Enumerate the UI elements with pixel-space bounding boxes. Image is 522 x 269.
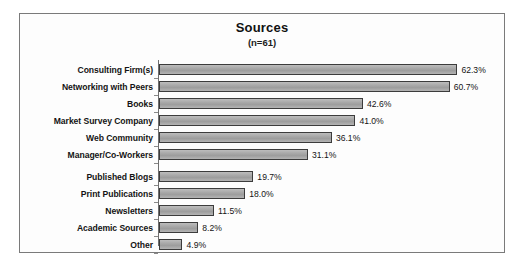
bar-value-label: 62.3% (461, 64, 485, 76)
bar (159, 239, 182, 250)
bar (159, 149, 308, 160)
bar (159, 132, 332, 143)
chart-title-block: Sources (n=61) (20, 20, 504, 49)
bar (159, 81, 450, 92)
bar (159, 222, 198, 233)
bar-row: Consulting Firm(s)62.3% (20, 62, 504, 79)
category-label: Academic Sources (20, 222, 153, 234)
plot-area: Consulting Firm(s)62.3%Networking with P… (20, 59, 504, 252)
category-label: Newsletters (20, 205, 153, 217)
bar-value-label: 42.6% (367, 98, 391, 110)
bar-row: Academic Sources8.2% (20, 220, 504, 237)
bar (159, 171, 253, 182)
bar (159, 115, 355, 126)
category-label: Web Community (20, 132, 153, 144)
bar-row: Books42.6% (20, 96, 504, 113)
chart-subtitle: (n=61) (20, 36, 504, 49)
bar-value-label: 4.9% (186, 239, 206, 251)
bar-value-label: 8.2% (202, 222, 222, 234)
bar-row: Manager/Co-Workers31.1% (20, 147, 504, 164)
category-label: Networking with Peers (20, 81, 153, 93)
bar-value-label: 60.7% (454, 81, 478, 93)
category-label: Market Survey Company (20, 115, 153, 127)
bar (159, 98, 363, 109)
category-label: Published Blogs (20, 171, 153, 183)
bar-value-label: 18.0% (249, 188, 273, 200)
bar-row: Print Publications18.0% (20, 186, 504, 203)
bar (159, 205, 214, 216)
category-label: Consulting Firm(s) (20, 64, 153, 76)
category-label: Manager/Co-Workers (20, 149, 153, 161)
axis-tick (154, 163, 158, 164)
bar (159, 64, 457, 75)
chart-frame: Sources (n=61) Consulting Firm(s)62.3%Ne… (19, 13, 505, 253)
bar-row: Published Blogs19.7% (20, 169, 504, 186)
bar-value-label: 41.0% (359, 115, 383, 127)
bar-row: Newsletters11.5% (20, 203, 504, 220)
bar-value-label: 19.7% (257, 171, 281, 183)
page-title: Sources (20, 20, 504, 36)
category-label: Print Publications (20, 188, 153, 200)
bar-value-label: 36.1% (336, 132, 360, 144)
category-label: Other (20, 239, 153, 251)
axis-tick (154, 253, 158, 254)
bar-value-label: 31.1% (312, 149, 336, 161)
bar (159, 188, 245, 199)
bar-value-label: 11.5% (218, 205, 242, 217)
bar-row: Web Community36.1% (20, 130, 504, 147)
category-label: Books (20, 98, 153, 110)
bar-row: Market Survey Company41.0% (20, 113, 504, 130)
bar-row: Networking with Peers60.7% (20, 79, 504, 96)
bar-row: Other4.9% (20, 237, 504, 254)
